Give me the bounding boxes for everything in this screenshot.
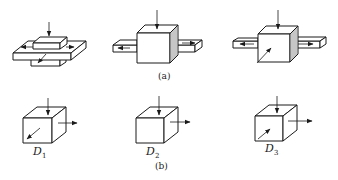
cube-d1: D 1 xyxy=(23,98,77,160)
label-d1: D xyxy=(32,145,42,158)
panel-a3-cube-plates xyxy=(233,10,326,63)
label-d2: D xyxy=(145,145,155,158)
caption-b: (b) xyxy=(155,161,168,171)
caption-a: (a) xyxy=(158,71,170,81)
label-d3: D xyxy=(264,142,274,155)
svg-text:2: 2 xyxy=(155,152,159,160)
stress-state-diagram: (a) D 1 D 2 D 3 (b) xyxy=(0,0,338,180)
panel-a2-cube-plates xyxy=(113,10,202,63)
svg-text:3: 3 xyxy=(274,149,278,157)
cube-d2: D 2 xyxy=(136,96,190,160)
cube-d3: D 3 xyxy=(255,96,312,157)
panel-a1-stacked-plates xyxy=(13,22,86,66)
svg-text:1: 1 xyxy=(42,152,46,160)
